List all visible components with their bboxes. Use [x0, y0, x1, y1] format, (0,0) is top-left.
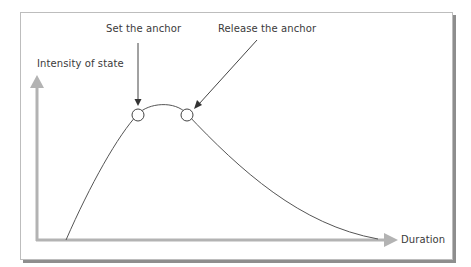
- x-axis-label: Duration: [401, 234, 445, 245]
- set-anchor-marker: [132, 109, 144, 121]
- x-axis-arrow-icon: [384, 233, 398, 247]
- release-anchor-marker: [181, 109, 193, 121]
- release-anchor-label: Release the anchor: [218, 23, 316, 34]
- y-axis-arrow-icon: [30, 75, 44, 88]
- set-anchor-arrow-icon: [135, 43, 142, 106]
- y-axis: [30, 75, 44, 241]
- x-axis: [36, 233, 398, 247]
- y-axis-label: Intensity of state: [37, 58, 124, 69]
- intensity-curve: [66, 105, 378, 240]
- diagram-canvas: [0, 0, 471, 267]
- release-anchor-arrow-icon: [194, 40, 257, 109]
- set-anchor-label: Set the anchor: [106, 23, 181, 34]
